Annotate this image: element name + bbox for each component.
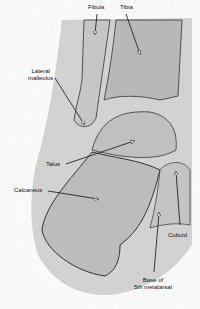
label-talus: Talus	[46, 161, 60, 168]
label-lateral-malleolus-line1: Lateral	[28, 68, 53, 75]
label-metatarsal-line2: 5th metatarsal	[134, 284, 172, 291]
xray-diagram: Fibula Tibia Lateral malleolus Talus Cal…	[0, 0, 200, 309]
label-base-5th-metatarsal: Base of 5th metatarsal	[134, 277, 172, 291]
label-fibula: Fibula	[88, 4, 104, 11]
label-cuboid: Cuboid	[168, 232, 187, 239]
tibia-bone	[104, 20, 182, 100]
label-metatarsal-line1: Base of	[134, 277, 172, 284]
label-lateral-malleolus-line2: malleolus	[28, 75, 53, 82]
xray-image	[0, 0, 200, 309]
label-tibia: Tibia	[120, 4, 133, 11]
label-calcaneus: Calcaneus	[14, 187, 42, 194]
label-lateral-malleolus: Lateral malleolus	[28, 68, 53, 82]
